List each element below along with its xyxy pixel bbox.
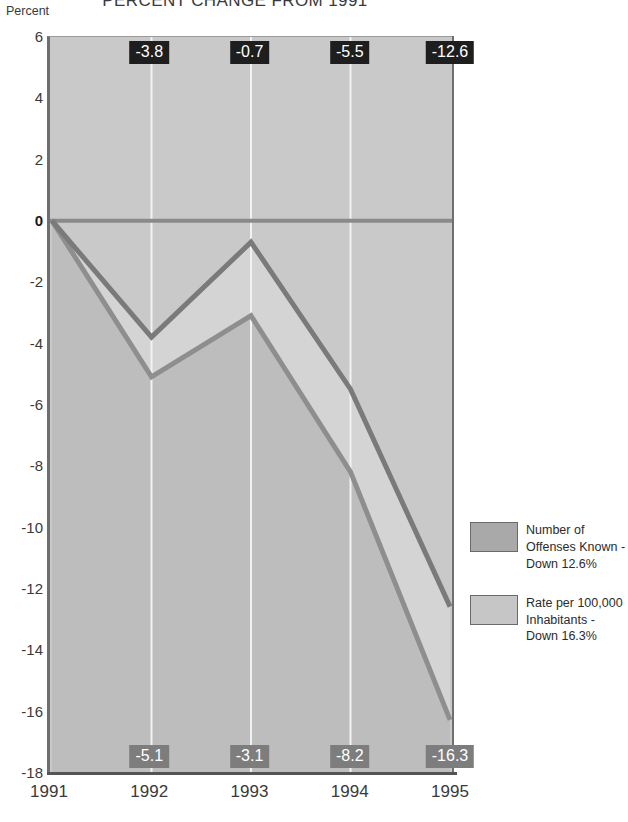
top-value-chip: -12.6	[426, 41, 474, 64]
bottom-value-chip: -5.1	[129, 745, 169, 768]
legend-swatch	[470, 522, 518, 552]
legend-item: Rate per 100,000Inhabitants -Down 16.3%	[470, 595, 626, 646]
y-tick-label: -4	[3, 334, 43, 351]
y-tick-label: 0	[3, 212, 43, 229]
plot-bottom-axis	[47, 772, 457, 775]
area-series-svg	[50, 37, 454, 772]
legend-item: Number ofOffenses Known -Down 12.6%	[470, 522, 626, 573]
legend-label: Number ofOffenses Known -Down 12.6%	[526, 522, 625, 573]
plot-area	[47, 36, 454, 772]
y-tick-label: 6	[3, 28, 43, 45]
x-tick-label: 1995	[431, 782, 469, 802]
bottom-value-chip: -8.2	[330, 745, 370, 768]
y-tick-label: -2	[3, 273, 43, 290]
x-axis: 19911992199319941995	[0, 782, 628, 812]
top-value-chip: -5.5	[330, 41, 370, 64]
y-tick-label: -18	[3, 764, 43, 781]
chart-legend: Number ofOffenses Known -Down 12.6%Rate …	[470, 522, 626, 667]
y-tick-label: -12	[3, 580, 43, 597]
y-tick-label: 2	[3, 150, 43, 167]
x-tick-label: 1993	[231, 782, 269, 802]
y-tick-label: -14	[3, 641, 43, 658]
y-tick-label: -16	[3, 702, 43, 719]
y-tick-label: -10	[3, 518, 43, 535]
x-tick-label: 1992	[130, 782, 168, 802]
bottom-value-chip: -3.1	[230, 745, 270, 768]
chart-title: PERCENT CHANGE FROM 1991	[0, 0, 470, 6]
chart-container: PERCENT CHANGE FROM 1991 Percent 6420-2-…	[0, 0, 628, 822]
legend-label: Rate per 100,000Inhabitants -Down 16.3%	[526, 595, 623, 646]
plot-right-border	[452, 36, 454, 775]
y-tick-label: -6	[3, 396, 43, 413]
x-tick-label: 1994	[331, 782, 369, 802]
y-tick-label: -8	[3, 457, 43, 474]
legend-swatch	[470, 595, 518, 625]
top-value-chip: -0.7	[230, 41, 270, 64]
x-tick-label: 1991	[30, 782, 68, 802]
y-tick-label: 4	[3, 89, 43, 106]
bottom-value-chip: -16.3	[426, 745, 474, 768]
y-axis: 6420-2-4-6-8-10-12-14-16-18	[0, 36, 43, 772]
y-axis-unit-label: Percent	[6, 4, 49, 18]
top-value-chip: -3.8	[129, 41, 169, 64]
